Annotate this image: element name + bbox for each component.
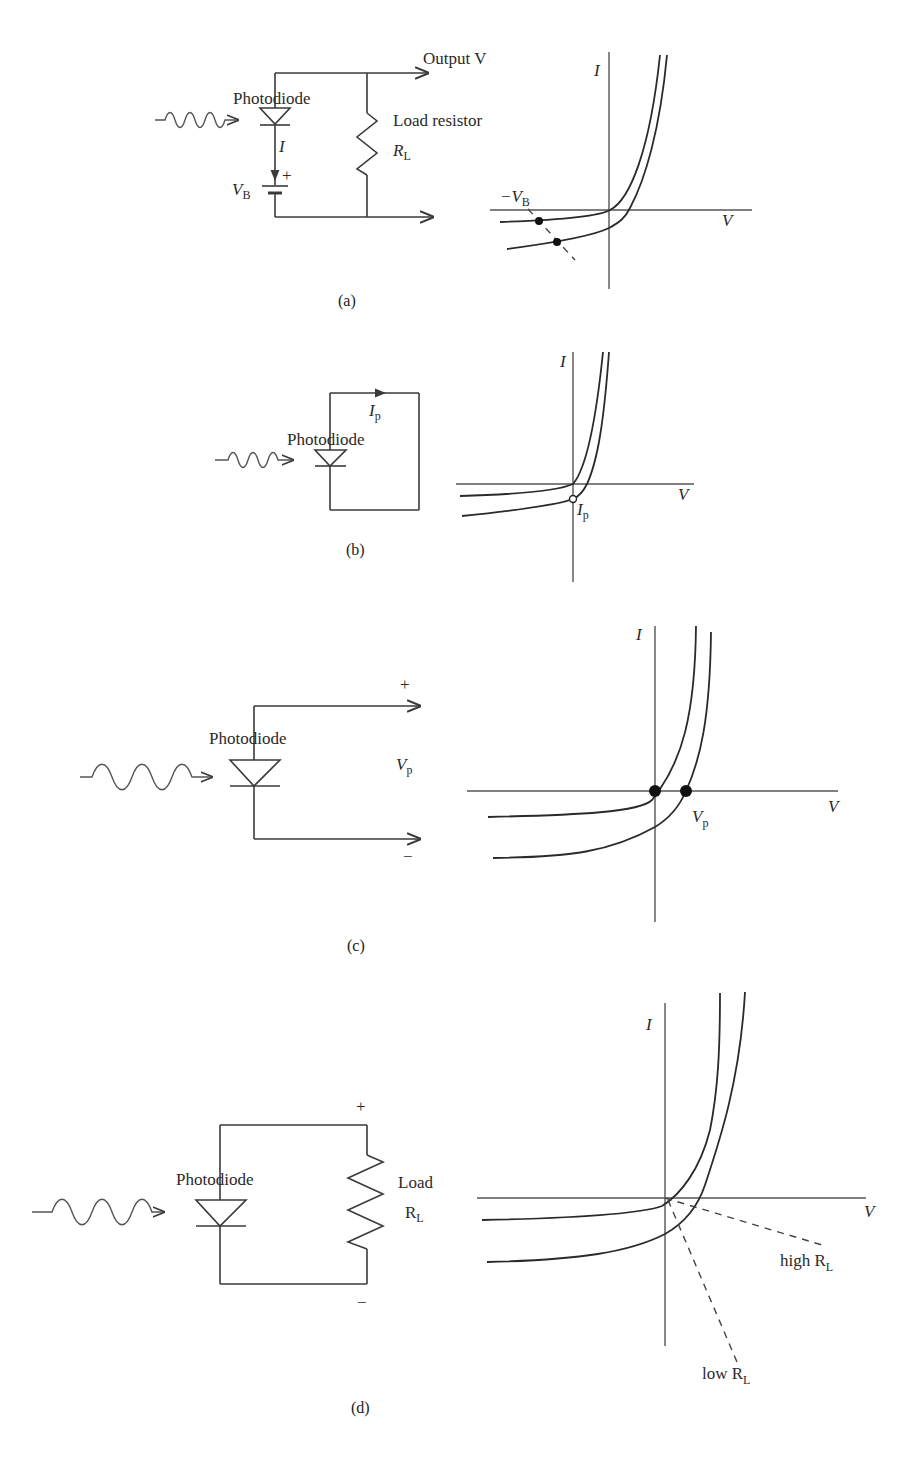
panel-b-circuit: Photodiode Ip [215, 393, 419, 510]
light-wave-icon [155, 113, 238, 128]
load-resistance-symbol: RL [392, 141, 411, 163]
i-axis-label: I [635, 625, 643, 644]
panel-c-circuit: Photodiode + − Vp [80, 675, 420, 866]
open-circuit-voltage-point [680, 785, 692, 797]
panel-d-caption: (d) [351, 1399, 370, 1417]
photovoltage-annotation: Vp [692, 807, 708, 830]
v-axis-label: V [828, 797, 841, 816]
load-resistor-symbol [357, 113, 377, 175]
illuminated-iv-curve [487, 992, 745, 1262]
panel-c-caption: (c) [347, 937, 365, 955]
dark-iv-curve [482, 993, 720, 1220]
dark-iv-curve [488, 626, 696, 817]
panel-a: Photodiode I VB + Load resistor RL Outpu… [155, 49, 752, 310]
load-resistor-label: Load resistor [393, 111, 483, 130]
load-resistance-symbol: RL [405, 1203, 424, 1225]
panel-c: Photodiode + − Vp I V Vp (c) [80, 625, 841, 955]
light-wave-icon [32, 1199, 164, 1225]
load-label: Load [398, 1173, 433, 1192]
panel-b: Photodiode Ip I V Ip (b) [215, 352, 694, 582]
photodiode-label: Photodiode [176, 1170, 253, 1189]
high-load-line [665, 1198, 822, 1245]
current-label: I [278, 137, 286, 156]
panel-b-caption: (b) [346, 541, 365, 559]
v-axis-label: V [722, 211, 735, 230]
plus-terminal: + [400, 675, 410, 694]
plus-terminal: + [356, 1097, 366, 1116]
panel-b-iv-graph: I V Ip [456, 352, 694, 582]
short-circuit-point [570, 496, 577, 503]
photodiode-label: Photodiode [209, 729, 286, 748]
bias-voltage-label: VB [232, 180, 250, 202]
photodiode-label: Photodiode [287, 430, 364, 449]
photodiode-symbol [260, 108, 290, 124]
photodiode-symbol [315, 450, 346, 466]
photocurrent-annotation: Ip [576, 500, 589, 522]
minus-vb-annotation: −VB [500, 187, 530, 209]
illuminated-iv-curve [493, 632, 711, 858]
output-voltage-label: Output V [423, 49, 487, 68]
photodiode-modes-figure: Photodiode I VB + Load resistor RL Outpu… [0, 0, 914, 1468]
photodiode-label: Photodiode [233, 89, 310, 108]
i-axis-label: I [593, 61, 601, 80]
photodiode-symbol [196, 1200, 246, 1226]
load-resistor-symbol [348, 1155, 383, 1249]
low-load-label: low RL [702, 1364, 750, 1387]
light-wave-icon [215, 453, 293, 468]
operating-point-illuminated [553, 238, 561, 246]
photovoltage-label: Vp [396, 755, 412, 777]
low-load-line [668, 1200, 737, 1362]
panel-a-circuit: Photodiode I VB + Load resistor RL Outpu… [155, 49, 487, 217]
zero-bias-point [649, 785, 661, 797]
minus-terminal: − [357, 1293, 367, 1312]
photodiode-symbol [230, 760, 280, 786]
photocurrent-label: Ip [368, 401, 381, 423]
i-axis-label: I [645, 1015, 653, 1034]
panel-c-iv-graph: I V Vp [467, 625, 841, 922]
high-load-label: high RL [780, 1251, 833, 1274]
panel-d-circuit: Photodiode + − Load RL [32, 1097, 433, 1312]
minus-terminal: − [403, 847, 413, 866]
operating-point-dark [535, 217, 543, 225]
bias-polarity-plus: + [282, 166, 292, 185]
i-axis-label: I [559, 352, 567, 371]
panel-a-caption: (a) [338, 292, 356, 310]
light-wave-icon [80, 764, 212, 790]
dark-iv-curve [460, 352, 603, 496]
panel-a-iv-graph: I V −VB [490, 52, 752, 289]
load-line [528, 209, 575, 260]
v-axis-label: V [678, 485, 691, 504]
panel-d: Photodiode + − Load RL I V high RL low R… [32, 992, 877, 1417]
panel-d-iv-graph: I V high RL low RL [477, 992, 877, 1387]
v-axis-label: V [864, 1202, 877, 1221]
